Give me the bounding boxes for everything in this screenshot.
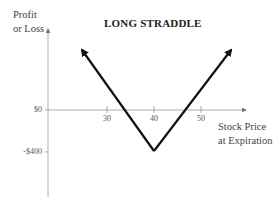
x-tick-label-40: 40 <box>144 114 164 123</box>
y-axis-label-line1: Profit <box>13 8 44 22</box>
y-axis-label: Profit or Loss <box>13 8 44 36</box>
x-axis-label-line1: Stock Price <box>218 120 273 134</box>
x-tick-label-30: 30 <box>97 114 117 123</box>
x-tick-label-50: 50 <box>191 114 211 123</box>
x-axis-label: Stock Price at Expiration <box>218 120 273 148</box>
x-axis-label-line2: at Expiration <box>218 134 273 148</box>
chart-title: LONG STRADDLE <box>104 17 202 29</box>
y-tick-label-loss: -$400 <box>12 147 42 156</box>
y-axis-label-line2: or Loss <box>13 22 44 36</box>
payoff-left-leg <box>82 50 154 151</box>
y-tick-label-zero: $0 <box>12 105 42 114</box>
